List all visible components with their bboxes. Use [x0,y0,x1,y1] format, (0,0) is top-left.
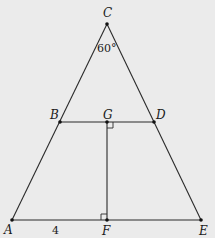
length-af-label: 4 [52,224,59,237]
angle-c-label: 60° [97,42,117,55]
label-a: A [3,223,13,237]
point-a [10,218,14,222]
point-c [105,22,109,26]
label-e: E [198,224,208,238]
label-c: C [103,6,112,20]
label-f: F [101,224,111,238]
point-e [199,218,203,222]
label-g: G [103,108,113,122]
point-f [105,218,109,222]
label-b: B [49,108,59,122]
geometry-diagram: C B G D A F E 60° 4 [0,0,215,238]
label-d: D [155,108,166,122]
